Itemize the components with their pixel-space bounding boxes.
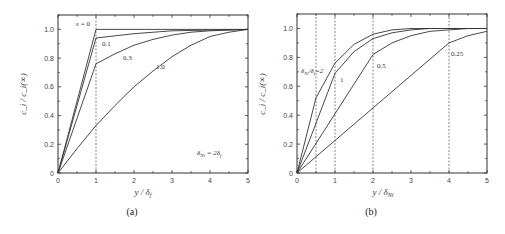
panel-b-curve-label-0.25: 0.25	[451, 50, 464, 58]
x-tick-label: 3	[170, 177, 174, 184]
panel-b-label: (b)	[365, 206, 377, 218]
y-tick-label: 0.4	[283, 112, 293, 119]
panel-b-curve-label-0.5: 0.5	[377, 62, 386, 70]
x-tick-label: 1	[333, 177, 337, 184]
y-tick-label: 0.4	[44, 112, 54, 119]
panel-b-chart: 01234500.20.40.60.81.0 δNi/δf=2 1 0.5 0.…	[257, 14, 489, 218]
panel-a-x-axis-title: y / δf	[134, 187, 153, 198]
x-tick-label: 4	[208, 177, 212, 184]
y-tick-label: 0.6	[44, 83, 54, 90]
x-tick-label: 2	[371, 177, 375, 184]
panel-a-curve-label-0.3: 0.3	[123, 54, 132, 62]
panel-a-ticks: 01234500.20.40.60.81.0	[44, 15, 250, 184]
y-tick-label: 0.8	[283, 54, 293, 61]
y-tick-label: 0.2	[283, 141, 293, 148]
y-tick-label: 0.6	[283, 83, 293, 90]
panel-a-curve-label-eps0: ε = 0	[76, 20, 90, 28]
x-title-main: y / δ	[134, 187, 151, 197]
x-title-main: y / δ	[372, 187, 389, 197]
y-tick-label: 0.8	[44, 55, 54, 62]
x-tick-label: 4	[447, 177, 451, 184]
x-title-sub: f	[150, 192, 153, 198]
panel-b-reference-lines	[316, 14, 449, 173]
x-tick-label: 5	[485, 177, 489, 184]
y-tick-label: 0	[289, 170, 293, 177]
panel-a-curve-label-1.0: 1.0	[156, 63, 165, 71]
x-tick-label: 0	[56, 177, 60, 184]
y-tick-label: 0	[50, 170, 54, 177]
panel-b-x-axis-title: y / δNi	[372, 187, 394, 198]
panel-a-y-axis-title: c_i / c_i(∞)	[18, 73, 28, 114]
y-tick-label: 1.0	[283, 25, 293, 32]
panel-b-curve-label-1: 1	[340, 76, 344, 84]
panel-a-annotation: δNi = 2δf	[197, 149, 222, 158]
annotation-sub2: f	[220, 153, 222, 158]
x-tick-label: 3	[409, 177, 413, 184]
panel-b-y-axis-title: c_i / c_i(∞)	[257, 73, 267, 114]
figure: 01234500.20.40.60.81.0 ε = 0 0.1 0.3 1.0…	[0, 0, 505, 234]
x-tick-label: 2	[132, 177, 136, 184]
x-title-sub: Ni	[387, 192, 394, 198]
y-tick-label: 1.0	[44, 26, 54, 33]
x-tick-label: 0	[295, 177, 299, 184]
y-tick-label: 0.2	[44, 141, 54, 148]
panel-a-chart: 01234500.20.40.60.81.0 ε = 0 0.1 0.3 1.0…	[18, 15, 250, 218]
x-tick-label: 5	[246, 177, 250, 184]
annotation-rest: = 2δ	[205, 149, 221, 157]
panel-a-label: (a)	[126, 206, 137, 218]
panel-a-curve-label-0.1: 0.1	[102, 40, 111, 48]
x-tick-label: 1	[94, 177, 98, 184]
panel-b-curve-label-2: δNi/δf=2	[301, 67, 324, 76]
